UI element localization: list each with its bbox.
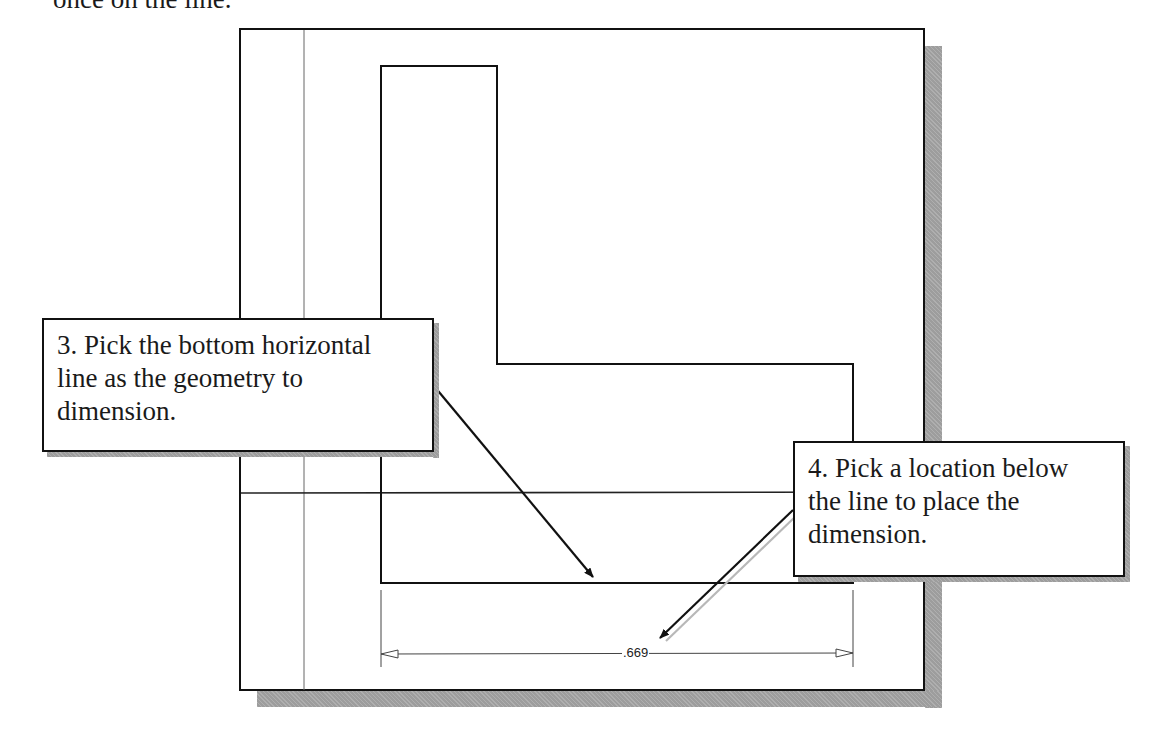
callout-text-line: line as the geometry to xyxy=(57,362,432,395)
callout-3-arrow xyxy=(434,386,593,577)
callout-text-line: 3. Pick the bottom horizontal xyxy=(57,329,432,362)
l-shape-profile[interactable] xyxy=(381,66,853,583)
callout-text-line: dimension. xyxy=(808,518,1123,551)
callout-4-arrow-shadow xyxy=(666,515,797,641)
dimension-arrow-left-icon xyxy=(381,650,398,658)
callout-step-4: 4. Pick a location below the line to pla… xyxy=(793,441,1125,577)
dimension-line[interactable] xyxy=(381,653,853,654)
callout-4-arrow xyxy=(660,510,793,638)
callout-text-line: 4. Pick a location below xyxy=(808,452,1123,485)
dimension-arrow-right-icon xyxy=(836,649,853,657)
callout-text-line: the line to place the xyxy=(808,485,1123,518)
dimension-value[interactable]: .669 xyxy=(622,646,649,659)
callout-text-line: dimension. xyxy=(57,395,432,428)
callout-step-3: 3. Pick the bottom horizontal line as th… xyxy=(42,318,434,452)
